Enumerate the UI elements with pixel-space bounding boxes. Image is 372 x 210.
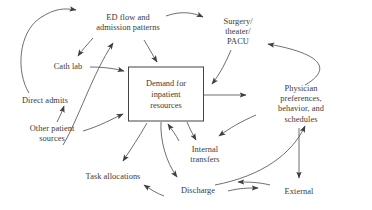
edge-demand-to-internal-transfers xyxy=(187,122,196,140)
edge-ed-flow-to-cath-lab xyxy=(78,38,93,56)
edge-discharge-to-task-allocations xyxy=(144,185,164,196)
edge-discharge-to-physician xyxy=(215,126,305,185)
node-cath-lab[interactable]: Cath lab xyxy=(54,62,83,72)
node-direct-admits[interactable]: Direct admits xyxy=(22,96,68,106)
node-external[interactable]: External xyxy=(285,187,314,197)
node-other-patient-sources[interactable]: Other patient sources xyxy=(30,124,75,144)
edge-demand-to-task-allocations xyxy=(123,123,147,161)
edge-ed-flow-to-surgery xyxy=(166,13,203,17)
diagram-canvas: ED flow and admission patterns Surgery/ … xyxy=(0,0,372,210)
edge-physician-to-surgery xyxy=(268,44,320,85)
edge-external-to-discharge xyxy=(238,182,270,185)
edge-cath-lab-to-demand xyxy=(90,67,124,71)
node-discharge[interactable]: Discharge xyxy=(181,186,215,196)
node-ed-flow[interactable]: ED flow and admission patterns xyxy=(96,13,159,33)
edge-discharge-to-external xyxy=(228,188,258,191)
edge-ed-flow-to-demand xyxy=(144,40,157,62)
node-physician-preferences[interactable]: Physician preferences, behavior, and sch… xyxy=(266,84,337,125)
node-demand-for-inpatient-resources[interactable]: Demand for inpatient resources xyxy=(128,67,204,122)
node-surgery-theater-pacu[interactable]: Surgery/ theater/ PACU xyxy=(223,17,252,48)
edge-other-sources-to-demand xyxy=(83,114,123,131)
node-task-allocations[interactable]: Task allocations xyxy=(86,172,141,182)
edge-demand-to-discharge xyxy=(161,122,177,177)
edge-surgery-to-demand xyxy=(212,50,231,84)
edge-physician-to-internal-transfers xyxy=(219,115,256,136)
edge-other-sources-to-direct-admits xyxy=(57,106,64,122)
node-internal-transfers[interactable]: Internal transfers xyxy=(190,145,219,165)
edge-internal-transfers-to-demand xyxy=(168,124,179,141)
edge-direct-admits-to-ed-flow xyxy=(21,9,76,93)
